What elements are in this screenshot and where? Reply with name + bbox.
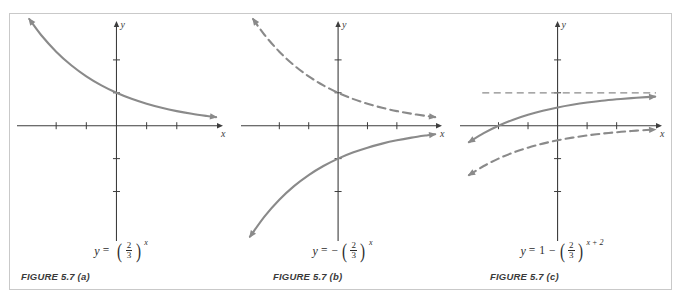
plot-area-a: xy [9, 13, 233, 245]
equation-a-numerator: 2 [126, 241, 133, 250]
y-axis-label: y [561, 19, 567, 30]
equation-a-fraction: 2 3 [125, 241, 133, 261]
equation-a-paren-open: ( [117, 243, 122, 260]
figure-panel-b: xy y = − ( 2 3 ) x FIGURE 5.7 (b) [233, 13, 452, 290]
equation-c-paren-open: ( [560, 243, 565, 260]
equation-b-paren-open: ( [342, 243, 347, 260]
equation-c-denominator: 3 [568, 250, 575, 260]
equation-b-numerator: 2 [350, 241, 357, 250]
equation-c-inner: y = 1 − ( 2 3 ) x + 2 [520, 241, 603, 261]
x-axis-label: x [439, 128, 445, 139]
equation-a-denominator: 3 [126, 250, 133, 260]
y-axis-label: y [341, 19, 347, 30]
equation-c-lhs: y [520, 245, 525, 257]
curve-b-1 [250, 134, 435, 236]
equation-c-numerator: 2 [568, 241, 575, 250]
figure-panel-c: xy y = 1 − ( 2 3 ) x + 2 FIGURE 5.7 (c) [452, 13, 672, 290]
graph-a: xy [9, 13, 233, 245]
equation-c-equals: = [528, 245, 537, 257]
equation-c-leading: 1 [538, 245, 546, 257]
figure-panel-a: xy y = ( 2 3 ) x FIGURE 5.7 (a) [9, 13, 233, 290]
equation-b-lhs: y [313, 245, 318, 257]
equation-b-exponent: x [369, 239, 373, 247]
curve-c-1 [469, 130, 655, 176]
equation-c: y = 1 − ( 2 3 ) x + 2 [452, 241, 672, 261]
equation-c-exponent: x + 2 [587, 239, 604, 247]
equation-b-inner: y = − ( 2 3 ) x [313, 241, 373, 261]
equation-b-sign: − [330, 245, 339, 257]
equation-a: y = ( 2 3 ) x [9, 241, 233, 261]
caption-a: FIGURE 5.7 (a) [21, 271, 90, 282]
graph-b: xy [233, 13, 452, 245]
equation-a-exponent: x [144, 239, 148, 247]
curve-arrowhead [649, 94, 657, 100]
graph-c: xy [452, 13, 672, 245]
plot-area-b: xy [233, 13, 452, 245]
equation-b-paren-close: ) [360, 243, 365, 260]
curve-c-0 [469, 97, 655, 143]
curve-a-0 [29, 19, 216, 117]
equation-a-inner: y = ( 2 3 ) x [94, 241, 147, 261]
caption-c: FIGURE 5.7 (c) [490, 271, 559, 282]
equation-c-fraction: 2 3 [568, 241, 576, 261]
equation-a-equals: = [102, 245, 111, 257]
x-axis-label: x [220, 128, 226, 139]
plot-area-c: xy [452, 13, 672, 245]
equation-a-lhs: y [94, 245, 99, 257]
equation-b-fraction: 2 3 [350, 241, 358, 261]
curve-arrowhead [649, 127, 657, 133]
figure-panels: xy y = ( 2 3 ) x FIGURE 5.7 (a) [9, 13, 672, 290]
caption-b: FIGURE 5.7 (b) [273, 271, 342, 282]
figure-root: xy y = ( 2 3 ) x FIGURE 5.7 (a) [0, 0, 681, 301]
equation-a-paren-close: ) [136, 243, 141, 260]
equation-c-paren-close: ) [578, 243, 583, 260]
equation-c-sign: − [548, 245, 557, 257]
y-axis-label: y [119, 19, 125, 30]
equation-b-denominator: 3 [350, 250, 357, 260]
curve-b-0 [253, 19, 435, 117]
equation-b: y = − ( 2 3 ) x [233, 241, 452, 261]
equation-b-equals: = [320, 245, 329, 257]
x-axis-label: x [659, 128, 665, 139]
